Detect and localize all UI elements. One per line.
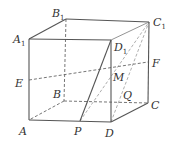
cube-diagram: A B C D A1 B1 C1 D1 E F P M Q (0, 0, 173, 145)
edge-A1-D1 (29, 39, 111, 40)
label-A: A (18, 125, 27, 138)
label-M: M (112, 71, 125, 84)
edge-B-A (29, 101, 64, 120)
edge-C1-C (148, 22, 149, 103)
edge-B-C (64, 101, 148, 103)
edge-B1-C1 (66, 19, 149, 22)
label-Q: Q (123, 89, 132, 102)
label-C1: C1 (153, 16, 166, 31)
segment-P-D1 (80, 40, 111, 121)
label-A1: A1 (12, 33, 25, 48)
label-C: C (151, 99, 160, 112)
segment-E-F (29, 62, 148, 80)
edge-B1-B (64, 19, 66, 101)
edge-A1-B1 (29, 19, 66, 39)
edge-A-D (29, 120, 111, 122)
label-D1: D1 (113, 41, 127, 56)
edge-D-C (111, 103, 148, 122)
hidden-edges (29, 19, 149, 122)
label-D: D (104, 127, 114, 140)
label-B1: B1 (51, 7, 65, 22)
label-B: B (52, 88, 61, 101)
label-F: F (151, 57, 160, 70)
label-P: P (73, 125, 82, 138)
label-E: E (14, 77, 23, 90)
